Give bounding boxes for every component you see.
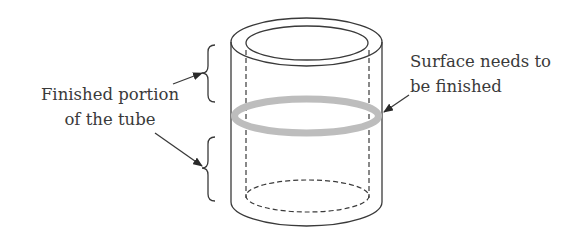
inner-bore	[246, 26, 369, 212]
left-label-line1: Finished portion	[41, 85, 180, 104]
lower-brace	[202, 137, 215, 201]
left-label-line2: of the tube	[64, 110, 155, 129]
arrow-to-lower-brace	[155, 133, 202, 166]
outer-cylinder	[231, 18, 382, 226]
upper-brace	[202, 45, 215, 102]
bottom-inner-ellipse-hidden	[246, 180, 369, 212]
top-inner-ellipse	[246, 26, 368, 60]
bottom-outer-arc	[231, 202, 382, 226]
right-label-line2: be finished	[410, 77, 502, 96]
tube-diagram: Finished portion of the tube Surface nee…	[0, 0, 580, 243]
right-label-line1: Surface needs to	[410, 52, 551, 71]
top-outer-ellipse	[231, 18, 382, 66]
arrow-to-surface-band	[384, 95, 409, 112]
surface-band-ring	[235, 99, 379, 133]
arrow-to-upper-brace	[173, 73, 202, 84]
